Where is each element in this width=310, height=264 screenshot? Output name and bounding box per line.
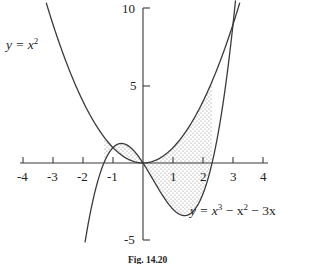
- shaded-region-left-lobe: [104, 137, 143, 163]
- curve-label-parabola-text: y = x: [6, 37, 34, 52]
- x-tick-label-4: 4: [260, 170, 267, 183]
- y-tick-label--5: -5: [124, 233, 135, 246]
- x-tick-label--3: -3: [47, 170, 58, 183]
- curve-label-cubic-head: y = x: [190, 203, 218, 218]
- y-tick-label-5: 5: [130, 79, 137, 92]
- y-axis-ticks: [143, 8, 150, 240]
- curve-label-parabola: y = x2: [6, 38, 38, 52]
- x-tick-label-2: 2: [200, 170, 207, 183]
- x-tick-label-3: 3: [230, 170, 237, 183]
- curve-label-cubic: y = x3 − x2 − 3x: [190, 204, 276, 218]
- x-tick-label--1: -1: [107, 170, 118, 183]
- figure-caption: Fig. 14.20: [128, 255, 167, 264]
- figure-container: -4 -3 -2 -1 1 2 3 4 10 5 -5 y = x2 y = x…: [0, 0, 310, 264]
- plot-area: [0, 0, 310, 264]
- curve-label-cubic-tail: − 3x: [248, 203, 276, 218]
- curve-label-cubic-mid: − x: [222, 203, 243, 218]
- curve-label-parabola-exponent: 2: [34, 36, 39, 46]
- x-tick-label-1: 1: [170, 170, 177, 183]
- x-tick-label--2: -2: [77, 170, 88, 183]
- x-tick-label--4: -4: [17, 170, 28, 183]
- y-tick-label-10: 10: [122, 2, 135, 15]
